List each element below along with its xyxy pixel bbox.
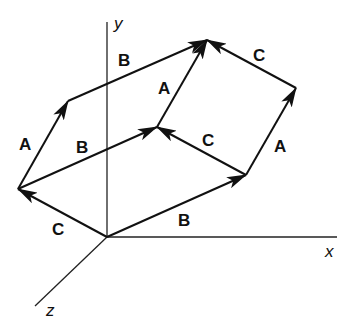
label-c-middle: C — [202, 131, 214, 150]
label-b-bottom: B — [178, 211, 190, 230]
x-axis-label: x — [324, 242, 334, 261]
label-b-middle: B — [76, 138, 88, 157]
label-a-right: A — [274, 137, 286, 156]
label-b-top-left: B — [118, 51, 130, 70]
vector-b-middle — [18, 127, 157, 189]
vector-diagram: y x z C A B B A C C A B — [0, 0, 356, 329]
y-axis-label: y — [113, 14, 124, 33]
label-c-top-right: C — [253, 46, 265, 65]
label-c-bottom-left: C — [52, 220, 64, 239]
z-axis — [35, 237, 107, 306]
vector-b-bottom — [107, 175, 246, 237]
label-a-left: A — [19, 135, 31, 154]
vector-a-right — [246, 88, 296, 175]
vector-b-top — [68, 40, 207, 101]
label-a-center: A — [158, 79, 170, 98]
vector-c-top — [207, 40, 296, 88]
z-axis-label: z — [45, 301, 55, 320]
